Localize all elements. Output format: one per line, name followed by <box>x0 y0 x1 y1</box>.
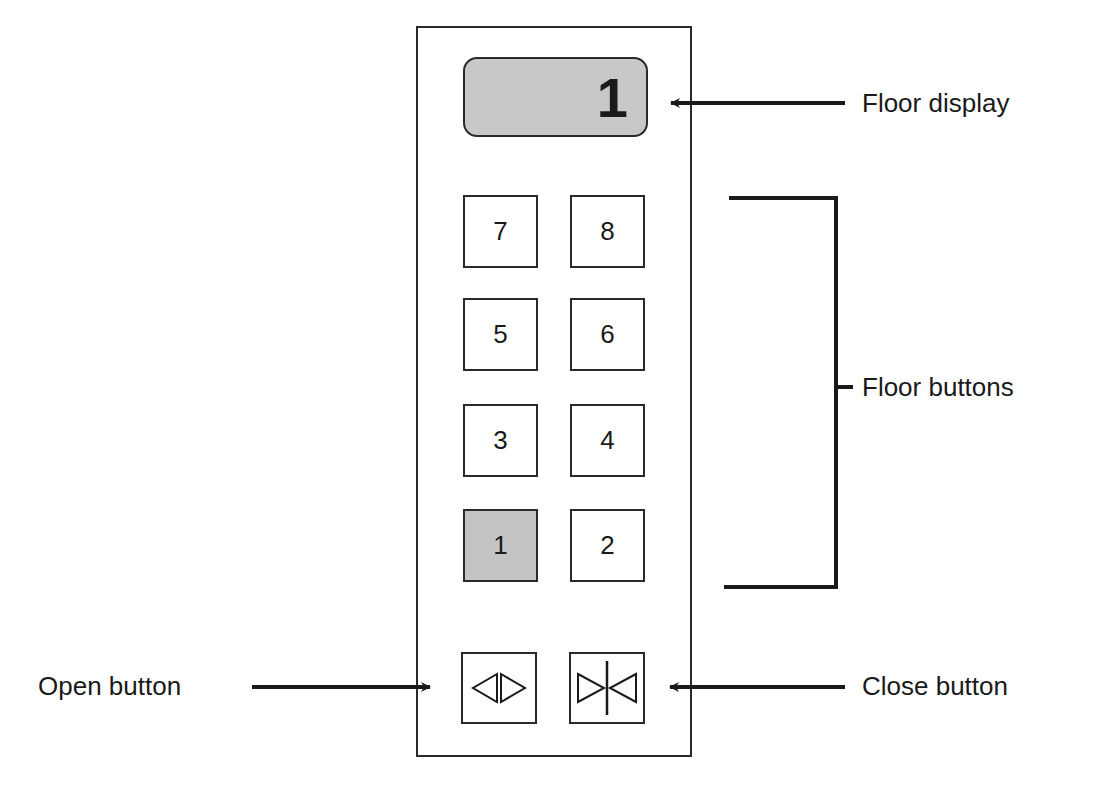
label-floor-display: Floor display <box>862 88 1009 119</box>
label-open-button: Open button <box>38 671 181 702</box>
floor-buttons-bracket <box>724 198 836 587</box>
label-floor-buttons: Floor buttons <box>862 372 1014 403</box>
label-close-button: Close button <box>862 671 1008 702</box>
